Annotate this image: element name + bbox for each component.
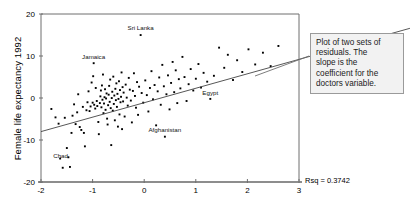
- scatter-point: [69, 166, 71, 168]
- scatter-point: [164, 136, 166, 138]
- scatter-point: [163, 85, 165, 87]
- scatter-point: [113, 95, 115, 97]
- scatter-point: [128, 77, 130, 79]
- scatter-point: [209, 98, 211, 100]
- scatter-point: [115, 82, 117, 84]
- scatter-point: [170, 82, 172, 84]
- scatter-point: [123, 92, 125, 94]
- scatter-point: [98, 133, 100, 135]
- scatter-point: [172, 61, 174, 63]
- scatter-point: [130, 100, 132, 102]
- scatter-point: [106, 92, 108, 94]
- scatter-point: [118, 98, 120, 100]
- scatter-point: [184, 76, 186, 78]
- scatter-point: [146, 94, 148, 96]
- scatter-point: [175, 69, 177, 71]
- x-tick-label: 1: [194, 186, 199, 195]
- scatter-point: [115, 99, 117, 101]
- x-tick-label: 0: [142, 186, 147, 195]
- scatter-point: [120, 96, 122, 98]
- scatter-point: [104, 88, 106, 90]
- scatter-point: [76, 111, 78, 113]
- scatter-point: [126, 97, 128, 99]
- scatter-point: [192, 90, 194, 92]
- scatter-point: [122, 86, 124, 88]
- chart-figure: Female life expectancy 1992 20100-10-20 …: [0, 0, 412, 208]
- scatter-point: [157, 90, 159, 92]
- scatter-point: [102, 99, 104, 101]
- scatter-point: [160, 104, 162, 106]
- scatter-point: [154, 84, 156, 86]
- scatter-point: [169, 108, 171, 110]
- scatter-point: [84, 145, 86, 147]
- callout-line-2: slope is the: [316, 58, 399, 68]
- scatter-point: [149, 87, 151, 89]
- scatter-point: [80, 129, 82, 131]
- scatter-point: [254, 64, 256, 66]
- scatter-point: [73, 103, 75, 105]
- scatter-point: [55, 116, 57, 118]
- scatter-point: [179, 87, 181, 89]
- scatter-point: [102, 74, 104, 76]
- scatter-point: [94, 108, 96, 110]
- scatter-point: [124, 116, 126, 118]
- rsq-label: Rsq = 0.3742: [305, 176, 350, 185]
- scatter-point: [107, 124, 109, 126]
- scatter-point: [121, 128, 123, 130]
- scatter-point: [151, 70, 153, 72]
- scatter-point: [114, 119, 116, 121]
- scatter-point: [101, 85, 103, 87]
- y-tick-label: -10: [23, 136, 35, 145]
- scatter-point: [66, 147, 68, 149]
- scatter-point: [116, 93, 118, 95]
- scatter-point: [206, 81, 208, 83]
- scatter-point: [92, 75, 94, 77]
- point-annotation-label: Egypt: [202, 89, 218, 96]
- scatter-point: [110, 107, 112, 109]
- scatter-point: [87, 101, 89, 103]
- scatter-point: [181, 56, 183, 58]
- scatter-point: [232, 79, 234, 81]
- scatter-point: [223, 67, 225, 69]
- point-annotation-label: Sri Lanka: [128, 24, 155, 31]
- scatter-point: [248, 48, 250, 50]
- scatter-point: [111, 97, 113, 99]
- scatter-point: [119, 89, 121, 91]
- scatter-point: [82, 106, 84, 108]
- scatter-point: [277, 45, 279, 47]
- scatter-point: [91, 82, 93, 84]
- scatter-point: [127, 105, 129, 107]
- scatter-point: [92, 102, 94, 104]
- scatter-point: [125, 84, 127, 86]
- scatter-point: [176, 102, 178, 104]
- point-annotation-label: Afghanistan: [148, 126, 181, 133]
- callout-line-1: residuals. The: [316, 48, 399, 58]
- scatter-point: [178, 78, 180, 80]
- scatter-point: [89, 110, 91, 112]
- scatter-point: [167, 74, 169, 76]
- scatter-point: [93, 104, 95, 106]
- callout-textbox: Plot of two sets of residuals. The slope…: [310, 33, 404, 94]
- scatter-point: [188, 83, 190, 85]
- y-tick-label: -20: [23, 178, 35, 187]
- scatter-point: [108, 85, 110, 87]
- scatter-point: [71, 132, 73, 134]
- scatter-point: [135, 107, 137, 109]
- scatter-point: [117, 126, 119, 128]
- callout-line-0: Plot of two sets of: [316, 38, 399, 48]
- scatter-point: [97, 121, 99, 123]
- scatter-point: [132, 90, 134, 92]
- scatter-point: [113, 103, 115, 105]
- scatter-point: [137, 114, 139, 116]
- scatter-point: [105, 109, 107, 111]
- scatter-point: [100, 106, 102, 108]
- scatter-point: [103, 103, 105, 105]
- scatter-point: [120, 101, 122, 103]
- scatter-point: [165, 93, 167, 95]
- scatter-point: [144, 79, 146, 81]
- point-annotation-label: Jamaica: [82, 53, 106, 60]
- scatter-point: [58, 123, 60, 125]
- scatter-point: [112, 76, 114, 78]
- scatter-point: [95, 87, 97, 89]
- scatter-point: [119, 113, 121, 115]
